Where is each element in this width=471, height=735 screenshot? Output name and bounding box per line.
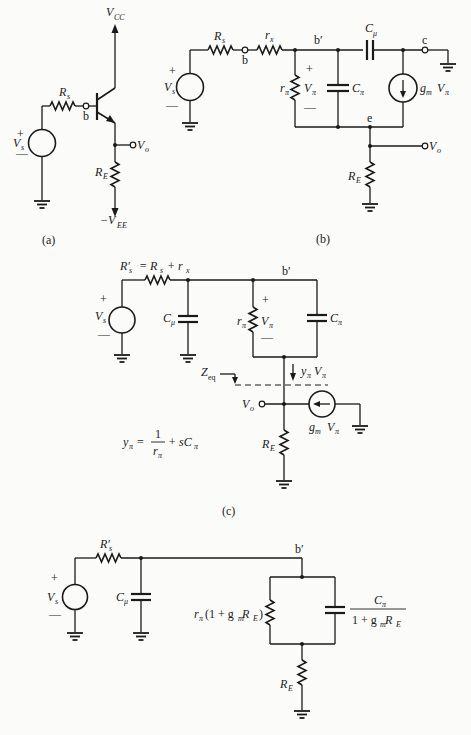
npn-transistor-icon <box>97 24 119 162</box>
resistor-rs-prime-icon <box>96 554 121 562</box>
label-b-prime: b′ <box>314 33 323 47</box>
plus-sign: + <box>100 292 107 306</box>
label-vs-sub: s <box>55 597 58 606</box>
c-eff-den: 1 + g <box>352 613 377 627</box>
capacitor-cmu-icon <box>178 316 198 322</box>
capacitor-cmu-icon <box>367 40 373 60</box>
label-emitter: e <box>367 111 372 125</box>
plus-sign: + <box>51 571 58 585</box>
voltage-source-icon <box>63 585 88 610</box>
label-cpi-sub: π <box>360 88 365 97</box>
label-vee: −V <box>100 213 117 227</box>
label-rs-eq-sub: s <box>160 266 163 275</box>
label-vcc-sub: CC <box>114 13 125 22</box>
minus-sign: — <box>15 146 29 160</box>
caption-a: (a) <box>42 233 55 247</box>
resistor-re-icon <box>366 162 374 187</box>
ground-icon <box>352 426 368 433</box>
eq-numerator: 1 <box>155 427 161 441</box>
label-vs-sub: s <box>172 87 175 96</box>
label-rs: R <box>213 29 222 43</box>
label-vpi-sub: π <box>312 88 317 97</box>
panel-d: R′ s b′ + V s — C μ r π (1 + g m R E ) C… <box>47 537 406 718</box>
panel-c: R′ s = R s + r x b′ + V s — C μ r π + V … <box>95 259 368 518</box>
ground-icon <box>440 64 456 71</box>
eq-equals: = <box>137 435 144 449</box>
label-re: R <box>261 437 270 451</box>
label-rs-prime-sub: s <box>109 544 112 553</box>
ground-icon <box>276 481 292 488</box>
c-eff-num-sub: π <box>382 600 387 609</box>
output-terminal <box>259 401 265 407</box>
resistor-rpi-icon <box>249 307 257 332</box>
label-zeq: Z <box>201 365 208 379</box>
arrow-down-icon <box>290 373 296 381</box>
label-vs-sub: s <box>103 316 106 325</box>
r-eff-close: ) <box>259 607 263 621</box>
ground-icon <box>182 123 198 130</box>
label-gm-sub: m <box>426 88 432 97</box>
label-zeq-sub: eq <box>208 373 216 382</box>
plus-sign: + <box>262 293 269 307</box>
voltage-source-icon <box>109 307 135 333</box>
capacitor-reflected-icon <box>325 607 345 613</box>
label-cpi-sub: π <box>338 318 343 327</box>
label-rs-sub: s <box>222 36 225 45</box>
arrow-left-icon <box>313 401 320 407</box>
capacitor-cpi-icon <box>327 85 349 91</box>
label-rs-eq: = R <box>139 259 158 273</box>
r-eff-mid: (1 + g <box>205 607 234 621</box>
ground-icon <box>34 201 50 208</box>
label-vpi-sub: π <box>269 321 274 330</box>
label-rs-eq-rx-sub: x <box>185 266 190 275</box>
label-re: R <box>347 169 356 183</box>
caption-c: (c) <box>222 504 235 518</box>
r-eff-pi: π <box>199 614 204 623</box>
resistor-rx-icon <box>257 46 282 54</box>
label-re: R <box>94 165 103 179</box>
resistor-re-icon <box>280 430 288 455</box>
label-rs-eq-rx: + r <box>167 259 183 273</box>
label-y-current-v-sub: π <box>322 371 327 380</box>
minus-sign: — <box>97 327 111 341</box>
r-eff-R: R <box>241 607 250 621</box>
voltage-source-icon <box>29 130 56 157</box>
label-cmu-sub: μ <box>123 597 128 606</box>
label-vo-sub: o <box>437 146 441 155</box>
label-collector: c <box>422 33 427 47</box>
label-b-prime: b′ <box>282 264 291 278</box>
label-rs-prime-sub: s <box>129 266 132 275</box>
label-re-sub: E <box>269 444 275 453</box>
ground-icon <box>67 633 83 640</box>
ground-icon <box>362 204 378 211</box>
label-reflected-capacitance: C π 1 + g m R E <box>350 593 406 629</box>
c-eff-den-R: R <box>384 613 393 627</box>
label-re-sub: E <box>287 684 293 693</box>
output-terminal <box>130 142 136 148</box>
label-vo-sub: o <box>145 145 149 154</box>
circuit-figure: + V s — R s b V CC V o R E −V EE (a) <box>0 0 471 735</box>
capacitor-cpi-icon <box>307 315 327 321</box>
label-rs: R <box>58 85 67 99</box>
label-cmu-sub: μ <box>372 29 377 38</box>
eq-lhs: y <box>122 435 129 449</box>
caption-b: (b) <box>316 232 330 246</box>
c-eff-den-E: E <box>395 620 401 629</box>
eq-lhs-sub: π <box>129 442 134 451</box>
voltage-source-icon <box>177 74 204 101</box>
eq-rest: + sC <box>168 435 193 449</box>
capacitor-cmu-icon <box>131 594 151 600</box>
eq-rest-sub: π <box>194 442 199 451</box>
base-terminal <box>242 47 248 53</box>
label-re-sub: E <box>355 176 361 185</box>
ground-icon <box>133 633 149 640</box>
label-base: b <box>242 53 248 67</box>
label-re: R <box>279 677 288 691</box>
label-vo-sub: o <box>250 404 254 413</box>
panel-a: + V s — R s b V CC V o R E −V EE (a) <box>13 5 149 247</box>
panel-b: + V s — R s b r x b′ C μ c r π + V π — C… <box>164 21 456 246</box>
arrow-down-icon <box>400 91 406 98</box>
resistor-re-icon <box>111 162 119 187</box>
label-rpi-sub: π <box>285 88 290 97</box>
label-y-current: y <box>300 364 307 378</box>
